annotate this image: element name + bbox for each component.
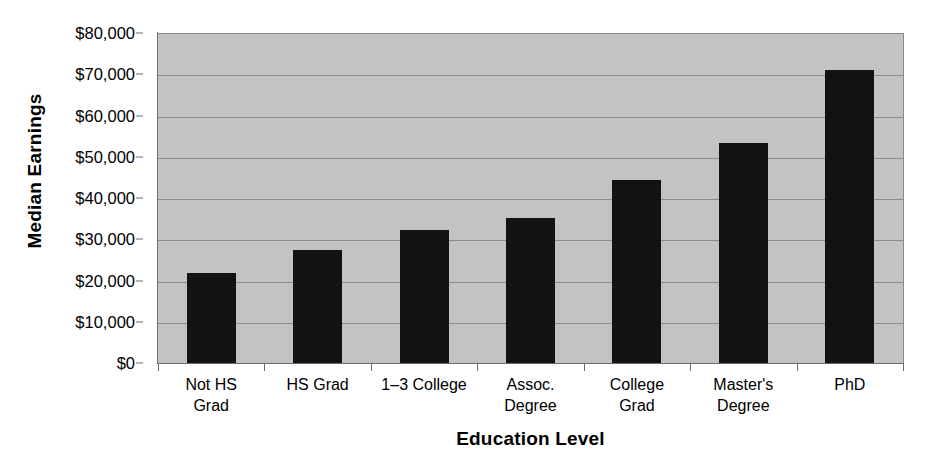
bar <box>293 250 342 363</box>
x-axis-tick-labels: Not HS GradHS Grad1–3 CollegeAssoc. Degr… <box>158 374 903 420</box>
y-axis-tick-label: $40,000 <box>75 189 135 208</box>
x-axis-tick-mark <box>158 364 159 371</box>
bar <box>719 143 768 363</box>
x-axis-tick-label: Not HS Grad <box>158 374 264 416</box>
y-axis-tick-mark <box>136 33 143 34</box>
y-axis-tick-label: $70,000 <box>75 65 135 84</box>
x-axis-tick-marks <box>158 364 904 372</box>
x-axis-tick-label: HS Grad <box>264 374 370 395</box>
bar <box>400 230 449 363</box>
y-axis-tick-mark <box>136 74 143 75</box>
x-axis-tick-mark <box>797 364 798 371</box>
y-axis-tick-mark <box>136 280 143 281</box>
y-axis-tick-mark <box>136 321 143 322</box>
bar <box>825 70 874 363</box>
y-axis-tick-mark <box>136 156 143 157</box>
bars-layer <box>158 33 903 363</box>
x-axis-title: Education Level <box>158 428 903 450</box>
y-axis-tick-label: $30,000 <box>75 230 135 249</box>
bar <box>187 273 236 363</box>
y-axis-tick-label: $20,000 <box>75 271 135 290</box>
bar-chart: Median Earnings $80,000$70,000$60,000$50… <box>0 0 938 464</box>
bar <box>506 218 555 363</box>
x-axis-tick-label: PhD <box>797 374 903 395</box>
y-axis-tick-labels: $80,000$70,000$60,000$50,000$40,000$30,0… <box>30 33 143 363</box>
bar <box>612 180 661 363</box>
x-axis-tick-mark <box>690 364 691 371</box>
x-axis-tick-label: Master's Degree <box>690 374 796 416</box>
y-axis-tick-mark <box>136 239 143 240</box>
x-axis-tick-label: College Grad <box>584 374 690 416</box>
y-axis-tick-label: $60,000 <box>75 106 135 125</box>
x-axis-tick-label: Assoc. Degree <box>477 374 583 416</box>
y-axis-tick-mark <box>136 115 143 116</box>
x-axis-tick-label: 1–3 College <box>371 374 477 395</box>
x-axis-tick-mark <box>371 364 372 371</box>
x-axis-tick-mark <box>264 364 265 371</box>
x-axis-tick-mark <box>584 364 585 371</box>
y-axis-tick-label: $50,000 <box>75 147 135 166</box>
y-axis-tick-label: $10,000 <box>75 312 135 331</box>
y-axis-tick-label: $0 <box>117 354 135 373</box>
x-axis-tick-mark <box>903 364 904 371</box>
y-axis-tick-mark <box>136 198 143 199</box>
x-axis-tick-mark <box>477 364 478 371</box>
y-axis-tick-label: $80,000 <box>75 24 135 43</box>
y-axis-tick-mark <box>136 363 143 364</box>
